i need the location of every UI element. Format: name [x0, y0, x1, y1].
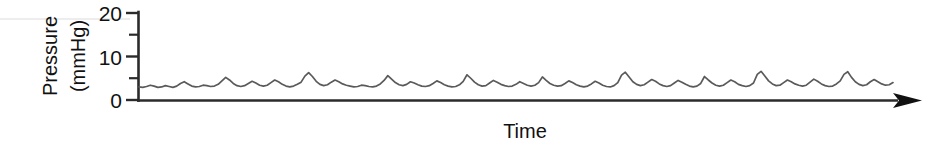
y-axis-title-line2: (mmHg)	[67, 20, 89, 92]
x-axis-title: Time	[503, 120, 547, 142]
y-axis-tick-label-0: 0	[110, 89, 122, 112]
y-axis-title-line1: Pressure	[39, 16, 61, 96]
pressure-time-chart-figure: 20 10 0 Pressure (mmHg) Time	[0, 0, 943, 148]
chart-svg: 20 10 0 Pressure (mmHg) Time	[0, 0, 943, 148]
y-axis-tick-label-10: 10	[99, 46, 122, 69]
pressure-waveform-trace	[139, 71, 893, 87]
y-axis-tick-label-20: 20	[99, 2, 122, 25]
